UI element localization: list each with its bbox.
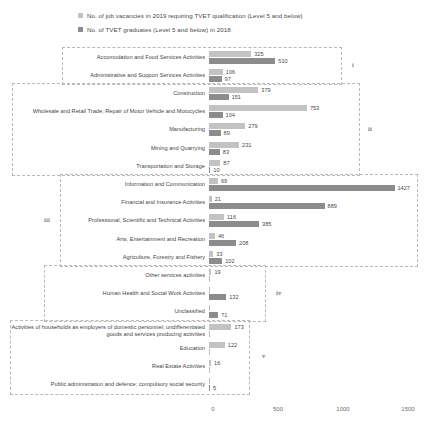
- bar-vacancies: [209, 178, 218, 184]
- bar-vacancies: [209, 214, 224, 220]
- bar-graduates: [209, 203, 325, 209]
- bar-row: Public administration and defence; compu…: [0, 378, 430, 391]
- axis-tick-label: 500: [273, 406, 283, 412]
- legend-label-graduates: No. of TVET graduates (Level 5 and below…: [87, 26, 231, 33]
- bar-value-label: 132: [229, 294, 238, 300]
- chart-legend: No. of job vacancies in 2019 requiring T…: [78, 12, 303, 40]
- bar-pair: 33102: [209, 251, 430, 264]
- bar-graduates: [209, 258, 222, 264]
- category-label: Information and Communication: [0, 181, 209, 188]
- bar-pair: 132: [209, 287, 430, 300]
- bar-line: 89: [209, 130, 430, 136]
- bar-line: 102: [209, 258, 430, 264]
- bar-value-label: 89: [224, 130, 230, 136]
- bar-line: 122: [209, 342, 430, 348]
- bar-value-label: 122: [228, 342, 237, 348]
- bar-pair: 23183: [209, 142, 430, 155]
- bar-value-label: 97: [225, 76, 231, 82]
- bar-row: Agriculture, Forestry and Fishery33102: [0, 251, 430, 264]
- bar-pair: 10697: [209, 69, 430, 82]
- category-label: Other services activities: [0, 272, 209, 279]
- legend-label-vacancies: No. of job vacancies in 2019 requiring T…: [87, 12, 303, 19]
- category-label: Human Health and Social Work Activities: [0, 290, 209, 297]
- bar-line: 753: [209, 105, 430, 111]
- bar-pair: 173: [209, 324, 430, 337]
- bar-row: Professional, Scientific and Technical A…: [0, 214, 430, 227]
- bar-line: 83: [209, 149, 430, 155]
- bar-graduates: [209, 349, 210, 355]
- bar-graduates: [209, 94, 229, 100]
- bar-vacancies: [209, 123, 245, 129]
- bar-vacancies: [209, 378, 210, 384]
- bar-line: 385: [209, 221, 430, 227]
- bar-line: [209, 349, 430, 355]
- bar-vacancies: [209, 69, 223, 75]
- bar-row: Mining and Quarrying23183: [0, 142, 430, 155]
- category-label: Activities of households as employers of…: [0, 324, 209, 338]
- bar-value-label: 10: [213, 167, 219, 173]
- bar-pair: 71: [209, 305, 430, 318]
- bar-pair: 46208: [209, 233, 430, 246]
- bar-pair: 753104: [209, 105, 430, 118]
- bar-graduates: [209, 221, 259, 227]
- bar-line: [209, 276, 430, 282]
- bar-value-label: 231: [242, 142, 251, 148]
- bar-vacancies: [209, 87, 258, 93]
- bar-value-label: 151: [232, 94, 241, 100]
- bar-line: 19: [209, 269, 430, 275]
- bar-graduates: [209, 385, 210, 391]
- bar-line: [209, 367, 430, 373]
- bar-value-label: 46: [218, 233, 224, 239]
- bar-value-label: 21: [215, 196, 221, 202]
- bar-row: Financial and Insurance Activities21889: [0, 196, 430, 209]
- bar-value-label: 116: [227, 214, 236, 220]
- bar-pair: 21889: [209, 196, 430, 209]
- bar-line: 279: [209, 123, 430, 129]
- bar-value-label: 106: [226, 69, 235, 75]
- bar-line: [209, 305, 430, 311]
- legend-item-graduates: No. of TVET graduates (Level 5 and below…: [78, 26, 303, 33]
- bar-line: 21: [209, 196, 430, 202]
- bar-line: 1427: [209, 185, 430, 191]
- bar-vacancies: [209, 287, 210, 293]
- group-tag-v: v: [262, 352, 266, 360]
- category-label: Administrative and Support Services Acti…: [0, 72, 209, 79]
- category-label: Real Estate Activities: [0, 363, 209, 370]
- bar-vacancies: [209, 105, 307, 111]
- bar-value-label: 173: [234, 324, 243, 330]
- bar-vacancies: [209, 324, 231, 330]
- category-label: Agriculture, Forestry and Fishery: [0, 254, 209, 261]
- bar-line: 71: [209, 312, 430, 318]
- bar-row: Information and Communication691427: [0, 178, 430, 191]
- bar-row: Unclassified71: [0, 305, 430, 318]
- category-label: Professional, Scientific and Technical A…: [0, 217, 209, 224]
- bar-value-label: 69: [221, 178, 227, 184]
- bar-row: Other services activities19: [0, 269, 430, 282]
- bar-line: [209, 378, 430, 384]
- bar-row: Arts, Entertainment and Recreation46208: [0, 233, 430, 246]
- legend-item-vacancies: No. of job vacancies in 2019 requiring T…: [78, 12, 303, 19]
- bar-graduates: [209, 294, 226, 300]
- bar-line: [209, 287, 430, 293]
- bar-row: Manufacturing27989: [0, 123, 430, 136]
- bar-value-label: 385: [262, 221, 271, 227]
- bar-row: Wholesale and Retail Trade; Repair of Mo…: [0, 105, 430, 118]
- bar-vacancies: [209, 251, 213, 257]
- bar-graduates: [209, 112, 223, 118]
- bar-value-label: 753: [310, 105, 319, 111]
- bar-pair: 116385: [209, 214, 430, 227]
- bar-vacancies: [209, 51, 251, 57]
- bar-line: 208: [209, 240, 430, 246]
- bar-pair: 8710: [209, 160, 430, 173]
- bar-value-label: 379: [261, 87, 270, 93]
- bar-rows: Accomodation and Food Services Activitie…: [0, 48, 430, 394]
- bar-line: 10: [209, 167, 430, 173]
- category-label: Transportation and Storage: [0, 163, 209, 170]
- category-label: Accomodation and Food Services Activitie…: [0, 54, 209, 61]
- bar-row: Education122: [0, 342, 430, 355]
- bar-line: 173: [209, 324, 430, 330]
- bar-vacancies: [209, 160, 220, 166]
- category-label: Financial and Insurance Activities: [0, 199, 209, 206]
- bar-line: 325: [209, 51, 430, 57]
- category-label: Arts, Entertainment and Recreation: [0, 236, 209, 243]
